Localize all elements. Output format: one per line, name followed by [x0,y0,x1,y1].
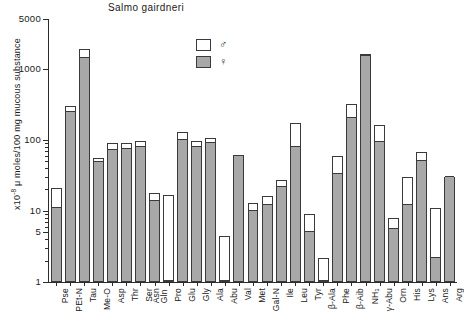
bar-female-segment [178,139,187,281]
legend-swatch-female [196,56,211,68]
bar-NH₃ [360,54,371,282]
x-tick-Met [253,282,254,286]
bar-Lys [416,152,427,282]
bar-female-segment [277,186,286,281]
bar-Leu [290,123,301,282]
x-tick-Leu [295,282,296,286]
bar-female-segment [291,146,300,281]
bar-female-segment [164,280,173,281]
y-tick-label-10: 10 [30,205,41,216]
bar-Gly [191,141,202,282]
bar-female-segment [220,280,229,281]
bar-Tyr [304,214,315,282]
x-tick-Ser [140,282,141,286]
x-tick-NH₃ [366,282,367,286]
x-label-Ans: Ans [440,288,450,303]
bar-female-segment [150,200,159,281]
bar-female-segment [122,148,131,281]
x-tick-Abu [225,282,226,286]
bar-Met [248,203,259,282]
y-tick-1 [43,282,49,283]
x-tick-γ-Abu [380,282,381,286]
x-label-Abu: Abu [229,288,239,304]
bar-female-segment [333,173,342,281]
y-tick-label-5000: 5000 [19,13,41,24]
bar-female-segment [431,257,440,281]
bar-Glu [177,132,188,282]
x-label-Glu: Glu [187,288,197,302]
x-tick-Ans [436,282,437,286]
x-label-Pse: Pse [60,288,70,303]
bar-β-Ala [318,258,329,282]
x-label-Me-O: Me-O [102,288,112,310]
bar-Tau [79,49,90,282]
y-tick-label-100: 100 [24,134,41,145]
bar-Ala [205,138,216,282]
bar-female-segment [80,57,89,281]
x-tick-Phe [337,282,338,286]
x-tick-Pro [169,282,170,286]
x-tick-Asp [112,282,113,286]
x-tick-Gal-N [267,282,268,286]
y-tick-label-5: 5 [35,226,41,237]
bar-female-segment [52,207,61,281]
bar-female-segment [445,176,454,281]
x-label-Asn-Gln: AsnGln [153,288,168,303]
x-label-Phe: Phe [341,288,351,304]
bar-female-segment [108,149,117,281]
x-label-Gal-N: Gal-N [271,288,281,311]
x-label-Arg: Arg [454,288,464,302]
bar-Pro [163,195,174,282]
y-axis-label-prefix: x10 [12,195,22,210]
x-label-Ile: Ile [285,288,295,298]
x-tick-Lys [422,282,423,286]
x-label-Ala: Ala [215,288,225,301]
bar-Gal-N [262,196,273,282]
bar-Ans [430,208,441,282]
x-label-Lys: Lys [426,288,436,302]
x-label-Gly: Gly [201,288,211,301]
x-tick-Arg [450,282,451,286]
bar-female-segment [206,142,215,281]
y-tick-label-1: 1 [35,276,41,287]
bar-Me-O [93,158,104,282]
bar-Val [233,155,244,282]
x-label-Asp: Asp [116,288,126,303]
bar-Asn-Gln [149,193,160,282]
x-tick-Ala [211,282,212,286]
bar-female-segment [347,117,356,281]
y-axis-label: x10-8 μ moles/100 mg mucous substance [10,24,22,224]
x-tick-Thr [126,282,127,286]
y-tick-label-1000: 1000 [19,63,41,74]
x-label-Leu: Leu [299,288,309,303]
bar-female-segment [263,204,272,281]
bar-His [402,177,413,282]
legend-swatch-male [196,39,211,51]
bar-PEt-N [65,106,76,282]
bar-female-segment [417,160,426,281]
bar-Orn [388,218,399,282]
x-label-line: Gln [160,288,168,303]
bar-Pse [51,188,62,282]
x-tick-PEt-N [70,282,71,286]
bar-female-segment [361,55,370,281]
bar-Asp [107,143,118,282]
bar-female-segment [192,146,201,281]
x-label-His: His [412,288,422,301]
bar-female-segment [234,155,243,281]
bar-female-segment [319,280,328,281]
legend-label-female: ♀ [219,55,227,67]
bar-Phe [332,156,343,282]
bar-Ile [276,180,287,282]
chart-title: Salmo gairdneri [108,2,184,13]
bar-female-segment [94,161,103,281]
x-tick-Tau [84,282,85,286]
x-tick-Pse [56,282,57,286]
bar-Abu [219,236,230,282]
x-tick-Glu [183,282,184,286]
x-tick-Tyr [309,282,310,286]
bar-Ser [135,141,146,282]
x-tick-Gly [197,282,198,286]
x-label-Tau: Tau [88,288,98,302]
